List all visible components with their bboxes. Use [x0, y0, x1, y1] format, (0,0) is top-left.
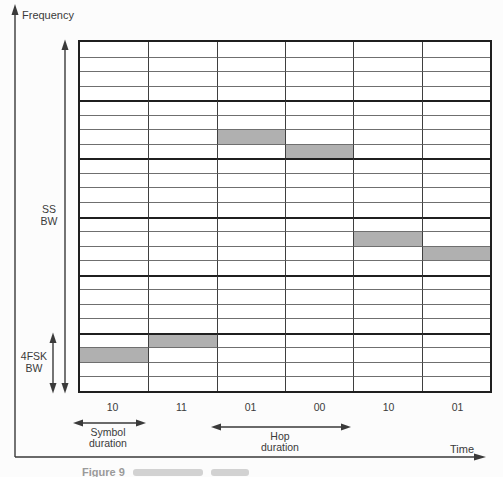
grid-cell [285, 71, 353, 86]
fsk-bw-label-line2: BW [12, 362, 56, 374]
column-symbol-label: 00 [285, 401, 354, 413]
grid-cell [353, 304, 421, 319]
grid-cell [285, 376, 353, 391]
grid-cell [353, 100, 421, 115]
grid-cell [285, 246, 353, 261]
grid-cell [422, 173, 490, 188]
grid-cell [80, 217, 148, 232]
occupied-hop-cell [353, 231, 421, 246]
grid-cell [353, 144, 421, 159]
grid-cell [353, 246, 421, 261]
ss-bw-label: SS BW [34, 203, 64, 227]
grid-cell [353, 42, 421, 57]
grid-cell [285, 202, 353, 217]
grid-cell [285, 158, 353, 173]
grid-cell [148, 129, 216, 144]
grid-cell [217, 173, 285, 188]
grid-cell [80, 202, 148, 217]
grid-cell [285, 217, 353, 232]
grid-cell [217, 362, 285, 377]
figure-caption-illegible-text [211, 469, 249, 476]
hop-duration-label-line2: duration [244, 442, 316, 453]
grid-cell [422, 202, 490, 217]
grid-cell [217, 202, 285, 217]
grid-cell [217, 86, 285, 101]
grid-cell [148, 217, 216, 232]
grid-cell [285, 231, 353, 246]
occupied-hop-cell [285, 144, 353, 159]
grid-cell [217, 246, 285, 261]
grid-cell [217, 231, 285, 246]
grid-cell [148, 173, 216, 188]
fhss-4fsk-figure: Frequency SS BW 4FSK BW 101101001001 Sym… [0, 0, 503, 477]
figure-caption-illegible-text [133, 469, 203, 476]
grid-cell [217, 376, 285, 391]
grid-cell [217, 42, 285, 57]
grid-cell [80, 86, 148, 101]
fsk-bw-label: 4FSK BW [12, 350, 56, 374]
grid-cell [217, 217, 285, 232]
symbol-duration-label: Symbol duration [72, 427, 144, 449]
grid-cell [80, 260, 148, 275]
grid-cell [422, 260, 490, 275]
figure-caption: Figure 9 [82, 466, 249, 477]
grid-cell [217, 115, 285, 130]
grid-cell [353, 362, 421, 377]
grid-cell [285, 42, 353, 57]
grid-cell [285, 289, 353, 304]
grid-cell [148, 260, 216, 275]
grid-cell [80, 115, 148, 130]
grid-cell [353, 333, 421, 348]
frequency-axis [12, 4, 19, 457]
time-axis [15, 454, 486, 461]
grid-cell [353, 86, 421, 101]
grid-cell [422, 86, 490, 101]
grid-cell [217, 260, 285, 275]
grid-cell [148, 304, 216, 319]
grid-cell [285, 129, 353, 144]
grid-cell [148, 231, 216, 246]
grid-cell [422, 231, 490, 246]
grid-cell [80, 246, 148, 261]
grid-cell [80, 158, 148, 173]
grid-cell [80, 231, 148, 246]
grid-cell [422, 71, 490, 86]
grid-cell [285, 100, 353, 115]
grid-cell [353, 71, 421, 86]
grid-cell [353, 289, 421, 304]
grid-cell [422, 187, 490, 202]
grid-cell [217, 289, 285, 304]
grid-cell [80, 100, 148, 115]
figure-caption-number: Figure 9 [82, 466, 125, 477]
grid-cell [285, 304, 353, 319]
grid-cell [422, 347, 490, 362]
grid-cell [217, 318, 285, 333]
grid-cell [285, 57, 353, 72]
grid-cell [422, 129, 490, 144]
grid-cell [285, 187, 353, 202]
column-symbol-label: 10 [78, 401, 147, 413]
grid-cell [80, 289, 148, 304]
grid-cell [422, 217, 490, 232]
grid-cell [80, 129, 148, 144]
grid-cell [148, 100, 216, 115]
grid-cell [353, 376, 421, 391]
grid-cell [353, 187, 421, 202]
grid-cell [80, 144, 148, 159]
grid-cell [217, 187, 285, 202]
grid-cell [217, 144, 285, 159]
grid-cell [148, 275, 216, 290]
grid-cell [217, 158, 285, 173]
grid-cell [80, 173, 148, 188]
grid-cell [422, 318, 490, 333]
grid-cell [80, 376, 148, 391]
grid-cell [217, 71, 285, 86]
grid-cell [217, 57, 285, 72]
grid-cell [285, 115, 353, 130]
grid-cell [217, 304, 285, 319]
grid-cell [80, 275, 148, 290]
grid-cell [80, 318, 148, 333]
frequency-axis-label: Frequency [22, 9, 74, 21]
fsk-bw-label-line1: 4FSK [12, 350, 56, 362]
occupied-hop-cell [217, 129, 285, 144]
